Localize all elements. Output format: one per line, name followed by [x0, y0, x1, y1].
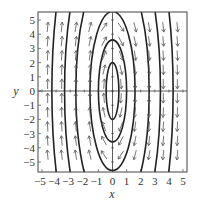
direction-arrow: [60, 51, 64, 61]
direction-arrow: [46, 22, 50, 32]
direction-arrow: [161, 93, 165, 103]
direction-arrow: [89, 36, 93, 46]
direction-arrow: [46, 79, 50, 89]
y-tick-label: −2: [23, 113, 35, 125]
direction-arrow: [133, 93, 137, 103]
direction-arrow: [176, 65, 180, 75]
direction-arrow: [176, 36, 180, 46]
y-tick-label: 1: [30, 71, 36, 83]
x-tick-label: 0: [110, 175, 116, 187]
x-tick-label: −4: [48, 175, 60, 187]
y-tick-label: 5: [30, 14, 36, 26]
direction-arrow: [74, 65, 78, 75]
direction-arrow: [46, 93, 50, 103]
direction-arrow: [161, 150, 165, 160]
direction-arrow: [133, 79, 137, 89]
y-tick-label: −1: [23, 99, 35, 111]
direction-arrow: [60, 150, 64, 160]
direction-arrow: [147, 136, 151, 146]
x-tick-label: −1: [91, 175, 103, 187]
phase-portrait-figure: −5−4−3−2−1012345 −5−4−3−2−1012345 x y: [0, 0, 198, 204]
direction-arrow: [88, 79, 92, 89]
direction-arrow: [161, 122, 165, 132]
x-tick-label: −5: [34, 175, 46, 187]
direction-arrow: [46, 136, 50, 146]
direction-arrow: [147, 93, 151, 103]
direction-arrow: [60, 22, 64, 32]
direction-arrow: [162, 51, 166, 61]
direction-arrow: [60, 93, 64, 103]
y-axis-label: y: [12, 84, 19, 98]
direction-arrow: [147, 150, 151, 160]
direction-arrow: [147, 107, 151, 117]
direction-arrow: [60, 65, 64, 75]
direction-arrow: [175, 150, 179, 160]
direction-arrow: [101, 151, 107, 159]
direction-arrow: [134, 36, 138, 46]
coordinate-axes: [38, 12, 187, 172]
x-tick-label: 2: [138, 175, 144, 187]
direction-arrow: [74, 22, 78, 32]
direction-arrow: [74, 93, 78, 103]
y-tick-label: −3: [23, 128, 35, 140]
x-tick-label: −3: [62, 175, 74, 187]
direction-arrow: [176, 79, 180, 89]
direction-arrow: [162, 22, 166, 32]
direction-arrow: [161, 136, 165, 146]
direction-arrow: [60, 79, 64, 89]
direction-arrow: [101, 23, 107, 31]
direction-arrow: [134, 51, 138, 61]
direction-arrow: [161, 79, 165, 89]
x-tick-label: 4: [166, 175, 172, 187]
direction-arrow: [46, 36, 50, 46]
direction-arrow: [74, 36, 78, 46]
direction-arrow: [133, 136, 137, 146]
direction-arrow: [103, 65, 107, 75]
direction-arrow: [118, 23, 124, 31]
x-tick-labels: −5−4−3−2−1012345: [34, 175, 186, 187]
direction-arrow: [46, 122, 50, 132]
direction-arrow: [60, 136, 64, 146]
direction-arrow: [176, 51, 180, 61]
direction-arrow: [102, 107, 106, 117]
direction-arrow: [74, 136, 78, 146]
direction-arrow: [88, 122, 92, 132]
direction-arrow: [162, 65, 166, 75]
x-tick-label: 1: [124, 175, 130, 187]
x-tick-label: 3: [152, 175, 158, 187]
y-tick-label: −4: [23, 142, 35, 154]
direction-arrow: [161, 107, 165, 117]
direction-arrow: [88, 93, 92, 103]
direction-arrow: [88, 136, 92, 146]
direction-arrow: [133, 150, 137, 160]
x-tick-label: −2: [76, 175, 88, 187]
direction-arrow: [147, 79, 151, 89]
direction-arrow: [46, 150, 50, 160]
direction-arrow: [134, 22, 138, 32]
direction-arrow: [74, 150, 78, 160]
direction-arrow: [176, 93, 180, 103]
direction-arrow: [118, 151, 124, 159]
direction-arrow: [89, 22, 93, 32]
direction-arrow: [60, 122, 64, 132]
x-axis-label: x: [108, 187, 115, 201]
direction-arrow: [74, 79, 78, 89]
direction-arrow: [102, 93, 106, 103]
direction-arrow: [148, 36, 152, 46]
y-tick-label: 3: [30, 42, 36, 54]
direction-arrow: [162, 36, 166, 46]
direction-arrow: [46, 107, 50, 117]
direction-arrow: [60, 107, 64, 117]
direction-arrow: [60, 36, 64, 46]
direction-arrow: [175, 122, 179, 132]
direction-arrow: [175, 107, 179, 117]
direction-arrow: [120, 65, 124, 75]
direction-arrow: [119, 107, 123, 117]
direction-arrow: [101, 136, 106, 145]
direction-arrow: [119, 79, 123, 89]
y-tick-label: 2: [30, 57, 36, 69]
direction-arrow: [88, 150, 92, 160]
y-tick-label: 4: [30, 28, 36, 40]
direction-arrow: [176, 22, 180, 32]
y-tick-label: −5: [23, 156, 35, 168]
